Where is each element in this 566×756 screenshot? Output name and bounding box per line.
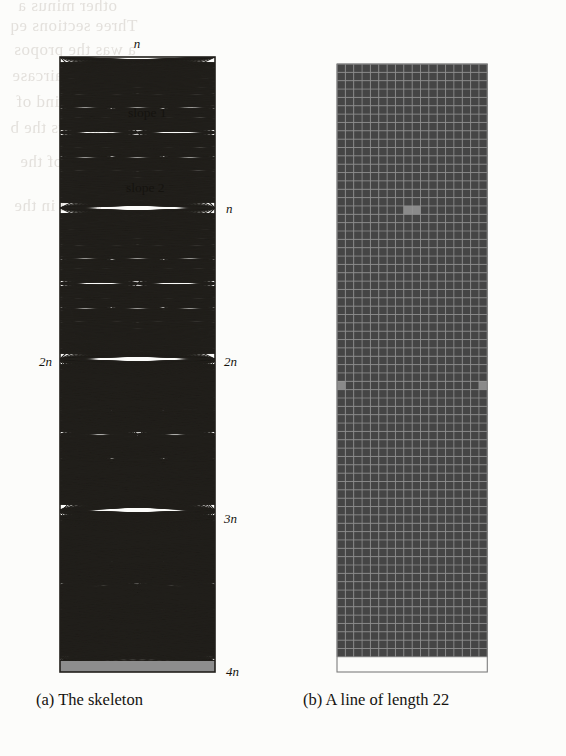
raster-cell [379,398,387,406]
raster-cell [421,72,429,80]
raster-cell [437,565,445,573]
raster-cell [395,264,403,272]
raster-cell [387,373,395,381]
raster-cell [437,423,445,431]
raster-cell [462,515,470,523]
raster-cell [454,231,462,239]
raster-cell [454,415,462,423]
raster-cell [370,114,378,122]
raster-cell [337,173,345,181]
raster-cell [354,649,362,657]
raster-cell [412,590,420,598]
raster-cell [404,615,412,623]
raster-cell [412,465,420,473]
raster-cell [462,306,470,314]
raster-cell [362,557,370,565]
raster-cell [437,390,445,398]
raster-cell [395,373,403,381]
raster-cell [412,390,420,398]
raster-cell [479,139,487,147]
raster-cell [387,273,395,281]
raster-cell [446,206,454,214]
raster-cell [370,281,378,289]
raster-cell [479,231,487,239]
raster-cell [379,623,387,631]
raster-cell [454,256,462,264]
raster-cell [454,248,462,256]
raster-cell [429,482,437,490]
raster-cell [345,365,353,373]
raster-cell [412,348,420,356]
raster-cell [462,565,470,573]
raster-cell [437,223,445,231]
raster-cell [479,315,487,323]
raster-cell [345,97,353,105]
raster-cell [379,598,387,606]
raster-cell [429,114,437,122]
raster-cell [345,440,353,448]
raster-cell [412,406,420,414]
raster-cell [387,565,395,573]
raster-cell [345,331,353,339]
raster-cell [395,398,403,406]
scanned-page: other minus a Three sections eq a was th… [0,0,566,756]
raster-cell [437,590,445,598]
raster-cell [462,607,470,615]
raster-cell [412,498,420,506]
raster-cell [395,181,403,189]
raster-cell [454,122,462,130]
raster-cell [429,139,437,147]
raster-cell [362,139,370,147]
raster-cell [412,598,420,606]
raster-cell [362,573,370,581]
raster-cell [362,548,370,556]
raster-cell [462,281,470,289]
raster-cell [404,72,412,80]
raster-cell [362,390,370,398]
raster-cell [362,515,370,523]
raster-cell [379,189,387,197]
raster-cell [337,582,345,590]
raster-cell [471,206,479,214]
raster-cell [479,598,487,606]
raster-cell [404,448,412,456]
raster-cell [454,131,462,139]
raster-cell [471,490,479,498]
raster-cell [345,390,353,398]
raster-cell [354,273,362,281]
raster-cell [370,289,378,297]
raster-cell [437,381,445,389]
raster-cell [454,214,462,222]
raster-cell [462,323,470,331]
raster-cell [337,598,345,606]
raster-cell [337,106,345,114]
raster-cell [379,565,387,573]
raster-cell [345,231,353,239]
raster-cell [370,198,378,206]
raster-cell [454,315,462,323]
raster-cell [479,431,487,439]
raster-cell [412,548,420,556]
raster-cell [479,465,487,473]
raster-cell [354,540,362,548]
raster-cell [412,306,420,314]
raster-cell [412,106,420,114]
raster-cell [387,473,395,481]
raster-cell [395,540,403,548]
raster-cell [462,189,470,197]
raster-cell [404,365,412,373]
raster-cell [471,256,479,264]
raster-cell [387,89,395,97]
raster-cell [345,632,353,640]
raster-cell [387,281,395,289]
raster-cell [429,64,437,72]
raster-cell [421,148,429,156]
raster-cell [462,298,470,306]
raster-cell [454,181,462,189]
raster-cell [337,206,345,214]
raster-cell [471,415,479,423]
raster-cell [370,348,378,356]
raster-cell [462,649,470,657]
label-left-2n: 2n [39,354,52,369]
raster-cell [479,289,487,297]
